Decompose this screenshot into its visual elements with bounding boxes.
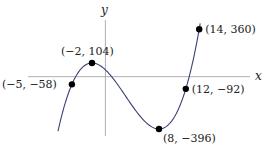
data-point [69,81,75,87]
point-label: (12, −92) [192,83,245,96]
cubic-graph: x y (−5, −58)(−2, 104)(8, −396)(12, −92)… [0,0,276,155]
point-label: (14, 360) [205,23,256,36]
data-point [196,26,202,32]
y-axis-label: y [100,3,108,17]
point-label: (8, −396) [163,132,216,145]
point-label: (−5, −58) [2,78,57,91]
data-point [183,86,189,92]
data-point [89,60,95,66]
labeled-points: (−5, −58)(−2, 104)(8, −396)(12, −92)(14,… [2,23,256,145]
data-point [156,126,162,132]
x-axis-label: x [255,69,262,83]
cubic-curve [58,23,200,131]
point-label: (−2, 104) [61,45,114,58]
